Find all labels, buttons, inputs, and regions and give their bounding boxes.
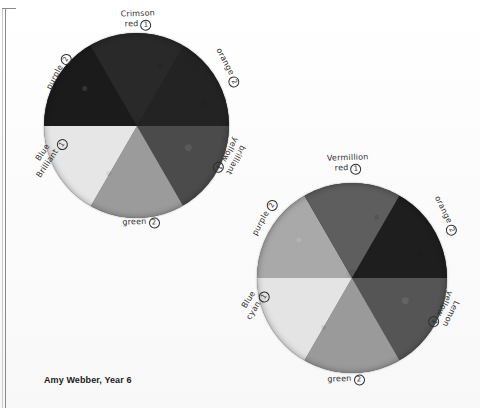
scanned-page: Crimson red1 orange2 brilliant yellow1 g… bbox=[0, 0, 480, 408]
wheel-right-label-green: green2 bbox=[308, 373, 384, 388]
colour-wheel-right[interactable] bbox=[257, 183, 447, 373]
wheel-right-label-red: Vermillion red1 bbox=[306, 152, 391, 177]
wheel-left-label-green: green2 bbox=[104, 216, 178, 231]
colour-wheel-left-group: Crimson red1 orange2 brilliant yellow1 g… bbox=[0, 0, 260, 230]
colour-wheel-right-group: Vermillion red1 orange2 Lemon yellow1 gr… bbox=[222, 140, 480, 408]
wheel-left-label-red: Crimson red1 bbox=[100, 8, 177, 33]
student-caption: Amy Webber, Year 6 bbox=[44, 375, 132, 385]
